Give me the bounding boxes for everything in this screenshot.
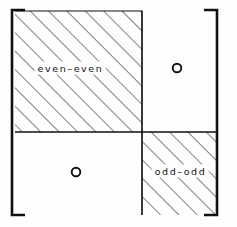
block-label-odd-odd: odd–odd bbox=[152, 165, 209, 178]
block-label-even-even: even–even bbox=[35, 62, 106, 75]
block-matrix-figure: even–even odd–odd bbox=[0, 0, 237, 227]
figure-canvas bbox=[0, 0, 237, 227]
